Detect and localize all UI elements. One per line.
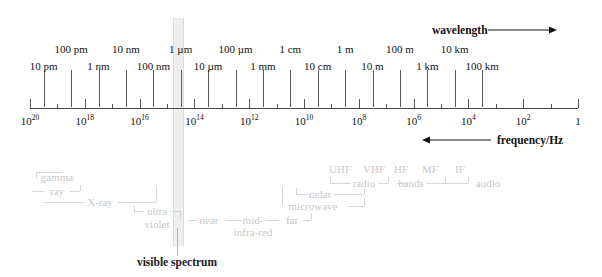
- gamma-rule-top: [36, 172, 62, 173]
- band-label-mid: mid-: [243, 214, 264, 226]
- wavelength-arrow-group: wavelength: [432, 24, 558, 36]
- wavelength-stem: [290, 70, 291, 107]
- wavelength-stem: [400, 70, 401, 107]
- wavelength-label: 100 km: [465, 60, 498, 72]
- wavelength-label: 100 pm: [54, 43, 87, 55]
- visible-spectrum-stem: [177, 228, 178, 256]
- radar-bracket-left: [296, 188, 297, 194]
- gamma-bracket-left: [36, 172, 37, 178]
- wavelength-stem: [126, 70, 127, 107]
- band-label-if: IF: [455, 163, 465, 175]
- wavelength-stem: [373, 70, 374, 107]
- band-label-hf: HF: [394, 163, 408, 175]
- band-label-ray: ray: [50, 185, 64, 197]
- axis-tick: [85, 99, 86, 108]
- gamma-bracket-right: [80, 185, 81, 191]
- wavelength-label: 1 cm: [279, 43, 301, 55]
- wavelength-stem: [455, 70, 456, 107]
- band-label-radar: radar: [309, 188, 332, 200]
- band-label-violet: violet: [144, 218, 169, 230]
- radio-rule-2: [379, 183, 388, 184]
- axis-exponent-label: 1012: [240, 115, 259, 127]
- band-label-uhf: UHF: [329, 163, 351, 175]
- axis-tick: [578, 99, 579, 108]
- axis-tick: [277, 104, 278, 108]
- axis-tick: [222, 104, 223, 108]
- wavelength-label: 1 nm: [87, 60, 109, 72]
- xray-rule-left: [44, 202, 84, 203]
- wavelength-stem: [99, 70, 100, 107]
- axis-exponent-label: 1018: [76, 115, 95, 127]
- band-label-ultra: ultra: [147, 205, 167, 217]
- wavelength-stem: [153, 70, 154, 107]
- radar-rule-right: [334, 194, 364, 195]
- gamma-rule-right: [70, 191, 80, 192]
- axis-tick: [523, 99, 524, 108]
- microwave-bracket-right: [364, 198, 365, 206]
- ir-rule-1: [188, 220, 197, 221]
- wavelength-stem: [44, 70, 45, 107]
- band-label-audio: audio: [476, 177, 500, 189]
- wavelength-label: 1 mm: [250, 60, 275, 72]
- radio-rule-1: [330, 183, 351, 184]
- axis-exponent-label: 1010: [295, 115, 314, 127]
- arrow-left-icon: [421, 135, 491, 145]
- wavelength-stem: [427, 70, 428, 107]
- axis-tick: [414, 99, 415, 108]
- axis-tick: [30, 99, 31, 108]
- band-label-infrared: infra-red: [234, 226, 272, 238]
- band-label-far: far: [286, 214, 298, 226]
- axis-exponent-label: 108: [351, 115, 366, 127]
- wavelength-label: 100 µm: [218, 43, 252, 55]
- wavelength-stem: [345, 70, 346, 107]
- axis-tick: [359, 99, 360, 108]
- wavelength-label: 100 m: [386, 43, 414, 55]
- band-label-radio: radio: [353, 177, 376, 189]
- axis-tick: [496, 104, 497, 108]
- wavelength-label: 10 cm: [304, 60, 331, 72]
- uv-bracket-right: [180, 211, 181, 219]
- wavelength-label: 100 nm: [137, 60, 170, 72]
- wavelength-arrow-label: wavelength: [432, 24, 488, 36]
- axis-exponent-label: 104: [461, 115, 476, 127]
- radio-rule-4: [427, 183, 468, 184]
- wavelength-label: 1 µm: [169, 43, 192, 55]
- radio-bracket-mf: [445, 177, 446, 183]
- axis-exponent-label: 1: [575, 115, 581, 127]
- axis-tick: [304, 99, 305, 108]
- band-label-xray: X-ray: [87, 196, 113, 208]
- wavelength-label: 10 m: [361, 60, 383, 72]
- wavelength-stem: [236, 70, 237, 107]
- wavelength-label: 10 km: [441, 43, 469, 55]
- axis-tick: [167, 104, 168, 108]
- wavelength-label: 10 nm: [112, 43, 140, 55]
- radio-bracket-if: [468, 177, 469, 183]
- radio-bracket-vhf: [388, 177, 389, 183]
- axis-tick: [386, 104, 387, 108]
- axis-tick: [112, 104, 113, 108]
- wavelength-stem: [318, 70, 319, 107]
- microwave-bracket-left: [282, 186, 283, 206]
- wavelength-stem: [71, 70, 72, 107]
- xray-bracket-right: [156, 186, 157, 202]
- axis-tick: [468, 99, 469, 108]
- axis-exponent-label: 106: [406, 115, 421, 127]
- axis-tick: [441, 104, 442, 108]
- xray-rule-right: [118, 202, 156, 203]
- ir-rule-3: [266, 220, 279, 221]
- uv-rule-right: [172, 211, 180, 212]
- axis-exponent-label: 1020: [21, 115, 40, 127]
- axis-tick: [551, 104, 552, 108]
- microwave-rule-right: [348, 206, 364, 207]
- band-label-microwave: microwave: [289, 200, 338, 212]
- ir-bracket-right: [311, 213, 312, 220]
- wavelength-stem: [263, 70, 264, 107]
- axis-tick: [140, 99, 141, 108]
- band-label-near: near: [200, 214, 219, 226]
- radio-bracket-uhf: [330, 177, 331, 183]
- wavelength-stem: [208, 70, 209, 107]
- frequency-arrow-label: frequency/Hz: [497, 134, 563, 146]
- wavelength-stem: [482, 70, 483, 107]
- axis-tick: [331, 104, 332, 108]
- gamma-rule-bottom: [32, 191, 44, 192]
